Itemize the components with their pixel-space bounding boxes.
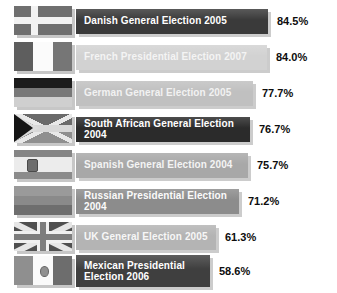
flag-cross-vertical (31, 6, 38, 35)
flag-cell (14, 256, 76, 286)
flag-cell (14, 78, 76, 108)
flag-cell (14, 42, 76, 72)
bar-wrap: Spanish General Election 2004 (76, 153, 248, 178)
flag-band-top (14, 186, 72, 196)
flag-united-kingdom (14, 222, 72, 251)
bar-wrap: Danish General Election 2005 (76, 9, 268, 34)
bar: UK General Election 2005 (76, 225, 216, 250)
flag-denmark (14, 6, 72, 35)
bar-label: Russian Presidential Election 2004 (84, 190, 239, 213)
chart-row-south-africa: South African General Election 2004 76.7… (0, 114, 337, 144)
flag-cell (14, 222, 76, 252)
flag-band-left (14, 256, 33, 285)
chart-row-russia: Russian Presidential Election 2004 71.2% (0, 186, 337, 216)
flag-band-bottom (14, 97, 72, 107)
bar-value-label: 71.2% (248, 195, 279, 207)
bar-wrap: UK General Election 2005 (76, 225, 216, 250)
flag-russia (14, 186, 72, 215)
flag-cell (14, 114, 76, 144)
flag-germany (14, 78, 72, 107)
flag-band-top (14, 150, 72, 157)
bar: German General Election 2005 (76, 81, 253, 106)
flag-band-right (53, 42, 72, 71)
flag-coat-of-arms (27, 159, 38, 172)
flag-cell (14, 186, 76, 216)
bar-wrap: German General Election 2005 (76, 81, 253, 106)
election-turnout-bar-chart: Danish General Election 2005 84.5% Frenc… (0, 0, 337, 293)
bar-label: South African General Election 2004 (84, 118, 250, 141)
bar: Danish General Election 2005 (76, 9, 268, 34)
bar: Russian Presidential Election 2004 (76, 189, 239, 214)
bar-label: Mexican Presidential Election 2006 (84, 260, 185, 283)
bar-value-label: 84.0% (276, 51, 307, 63)
bar-label: Spanish General Election 2004 (84, 159, 233, 171)
flag-south-africa (14, 114, 72, 143)
flag-band-middle (14, 196, 72, 206)
flag-band-middle (14, 88, 72, 98)
bar-value-label: 58.6% (219, 265, 250, 277)
flag-band-bottom (14, 205, 72, 215)
flag-cross-horizontal (14, 17, 72, 24)
flag-france (14, 42, 72, 71)
flag-band-bottom (14, 172, 72, 179)
chart-row-france: French Presidential Election 2007 84.0% (0, 42, 337, 72)
flag-band-top (14, 78, 72, 88)
bar-wrap: South African General Election 2004 (76, 117, 250, 142)
chart-row-mexico: Mexican Presidential Election 2006 58.6% (0, 255, 337, 287)
bar-wrap: Mexican Presidential Election 2006 (76, 255, 210, 287)
bar-value-label: 77.7% (262, 87, 293, 99)
bar: Mexican Presidential Election 2006 (76, 255, 210, 287)
chart-row-germany: German General Election 2005 77.7% (0, 78, 337, 108)
chart-row-united-kingdom: UK General Election 2005 61.3% (0, 222, 337, 252)
bar-label: German General Election 2005 (84, 87, 231, 99)
bar: French Presidential Election 2007 (76, 45, 267, 70)
flag-band-middle (14, 157, 72, 172)
bar-value-label: 75.7% (257, 159, 288, 171)
flag-cross-vertical-red (40, 222, 46, 251)
flag-band-middle (33, 42, 52, 71)
bar-label: Danish General Election 2005 (84, 15, 227, 27)
flag-cell (14, 6, 76, 36)
flag-mexico (14, 256, 72, 285)
chart-row-denmark: Danish General Election 2005 84.5% (0, 6, 337, 36)
bar: Spanish General Election 2004 (76, 153, 248, 178)
bar-wrap: Russian Presidential Election 2004 (76, 189, 239, 214)
bar-value-label: 84.5% (277, 15, 308, 27)
bar-label: UK General Election 2005 (84, 231, 208, 243)
flag-spain (14, 150, 72, 179)
bar-label: French Presidential Election 2007 (84, 51, 247, 63)
bar-wrap: French Presidential Election 2007 (76, 45, 267, 70)
chart-row-spain: Spanish General Election 2004 75.7% (0, 150, 337, 180)
bar: South African General Election 2004 (76, 117, 250, 142)
bar-value-label: 61.3% (225, 231, 256, 243)
bar-value-label: 76.7% (259, 123, 290, 135)
flag-cell (14, 150, 76, 180)
flag-hoist-triangle (14, 114, 33, 142)
flag-coat-of-arms (40, 266, 49, 277)
flag-band-left (14, 42, 33, 71)
flag-band-right (53, 256, 72, 285)
